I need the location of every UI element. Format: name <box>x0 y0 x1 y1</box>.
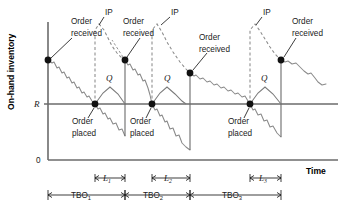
leader-ip-3 <box>256 17 262 25</box>
order-placed-label-2-line2: placed <box>130 129 155 138</box>
lead-time-label-1: L1 <box>102 173 111 184</box>
tbo-label-2-base: TBO <box>143 191 160 200</box>
order-placed-label-2-line1: Order <box>130 117 151 126</box>
ip-label-1: IP <box>105 8 113 17</box>
ip-label-2: IP <box>171 8 179 17</box>
q-bracket-3 <box>250 87 281 104</box>
order-quantity-label-1: Q <box>106 73 113 83</box>
q-bracket-1 <box>95 87 125 104</box>
ip-line-3 <box>250 24 281 104</box>
order-received-label-3-line1: Order <box>199 33 220 42</box>
order-received-label-4-line1: Order <box>292 17 313 26</box>
order-received-label-4-line2: received <box>292 29 323 38</box>
y-axis-label: On-hand inventory <box>6 33 16 110</box>
leader-order-received-2b <box>127 38 140 57</box>
depletion-segment-1b <box>95 104 125 136</box>
q-bracket-2 <box>152 87 186 104</box>
ip-line-2 <box>152 24 190 104</box>
reorder-point-tick: R <box>33 99 40 109</box>
order-received-label-1-line1: Order <box>71 17 92 26</box>
tbo-label-2-sub: 2 <box>160 195 163 201</box>
ip-label-3: IP <box>263 8 271 17</box>
order-received-label-3-line2: received <box>199 45 230 54</box>
inventory-profile-figure: On-hand inventory R 0 Time Order receive… <box>0 0 346 210</box>
tbo-label-3-base: TBO <box>222 191 239 200</box>
order-placed-dot-3 <box>247 101 254 108</box>
order-placed-label-3-line2: placed <box>228 129 253 138</box>
lead-time-label-2-sub: 2 <box>169 178 172 184</box>
order-placed-dot-1 <box>92 101 99 108</box>
depletion-segment-3 <box>190 73 250 104</box>
leader-order-received-3 <box>193 53 207 70</box>
order-received-dot-3 <box>187 70 194 77</box>
tbo-label-1: TBO1 <box>71 191 91 201</box>
order-placed-dot-2 <box>149 101 156 108</box>
order-quantity-markers <box>95 87 281 104</box>
leader-ip-2 <box>161 17 170 25</box>
order-placed-label-1-line1: Order <box>72 117 93 126</box>
order-received-dot-1 <box>45 57 52 64</box>
depletion-segment-3b <box>250 104 281 137</box>
order-quantity-label-3: Q <box>261 73 268 83</box>
text-labels: On-hand inventory R 0 Time Order receive… <box>6 8 326 176</box>
order-received-label-2-line2: received <box>123 29 154 38</box>
order-received-label-1-line2: received <box>71 29 102 38</box>
zero-tick: 0 <box>36 156 41 165</box>
leader-order-received-4 <box>284 38 296 57</box>
tbo-brackets: TBO1 TBO2 TBO3 <box>48 190 281 201</box>
lead-time-label-3: L3 <box>258 173 267 184</box>
lead-time-label-3-sub: 3 <box>263 178 267 184</box>
tbo-label-3-sub: 3 <box>239 195 242 201</box>
leader-ip-1 <box>99 17 104 25</box>
order-received-label-2-line1: Order <box>123 17 144 26</box>
lead-time-brackets: L1 L2 L3 <box>95 173 281 184</box>
depletion-segment-2b <box>152 104 190 150</box>
lead-time-label-1-sub: 1 <box>108 178 111 184</box>
lead-time-label-2: L2 <box>163 173 172 184</box>
x-axis-label: Time <box>306 166 326 176</box>
depletion-segment-1 <box>48 60 95 104</box>
depletion-segment-4 <box>281 60 326 85</box>
tbo-label-1-base: TBO <box>71 191 88 200</box>
order-quantity-label-2: Q <box>164 73 171 83</box>
tbo-label-2: TBO2 <box>143 191 163 201</box>
order-placed-label-1-line2: placed <box>72 129 97 138</box>
depletion-segment-2 <box>125 60 152 104</box>
axes-group <box>44 22 338 160</box>
tbo-label-1-sub: 1 <box>88 195 91 201</box>
tbo-label-3: TBO3 <box>222 191 242 201</box>
order-placed-label-3-line1: Order <box>228 117 249 126</box>
leader-order-received-1 <box>51 38 72 58</box>
order-received-dot-4 <box>278 57 285 64</box>
order-received-dot-2 <box>122 57 129 64</box>
